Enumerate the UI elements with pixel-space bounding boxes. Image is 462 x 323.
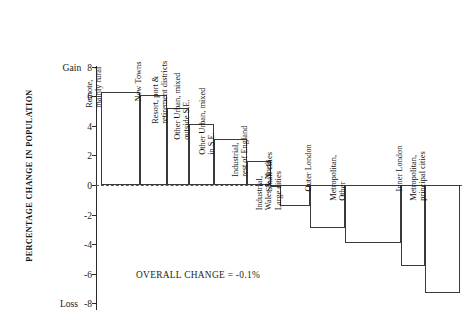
y-tick-label: -6 — [84, 268, 92, 279]
y-tick-label: -4 — [84, 239, 92, 250]
population-change-bar-chart: PERCENTAGE CHANGE IN POPULATION Gain8642… — [0, 0, 462, 323]
gain-label: Gain — [63, 61, 82, 72]
category-label: Metropolitan, principal cities — [409, 151, 428, 201]
y-tick-value: -2 — [84, 209, 92, 220]
category-label: Outer London — [304, 144, 313, 191]
category-label: New Towns — [134, 61, 143, 101]
y-tick-value: -8 — [84, 298, 92, 309]
bar — [425, 185, 460, 293]
category-label: Other Urban, mixed in S.E. — [198, 88, 217, 155]
bar — [345, 185, 401, 243]
category-label: Other Urban, mixed outside S.E. — [173, 73, 192, 140]
category-label: Industrial, Wales & North Large cities — [255, 160, 283, 211]
y-tick-value: -4 — [84, 239, 92, 250]
loss-label: Loss — [60, 298, 78, 309]
y-tick-label: Loss-8 — [60, 298, 92, 309]
bar — [101, 92, 140, 185]
y-axis-tick-labels: Gain86420-2-4-6Loss-8 — [0, 0, 100, 323]
overall-change-annotation: OVERALL CHANGE = -0.1% — [136, 270, 260, 280]
category-label: Industrial, rest of England — [231, 126, 250, 177]
category-label: Metropolitan, Other — [329, 155, 348, 201]
y-tick-value: -6 — [84, 268, 92, 279]
category-label: Resort, port & retirement districts — [151, 61, 170, 124]
category-label: Remote, mainly rural — [85, 66, 104, 107]
category-label: Inner London — [395, 146, 404, 192]
y-tick-label: -2 — [84, 209, 92, 220]
